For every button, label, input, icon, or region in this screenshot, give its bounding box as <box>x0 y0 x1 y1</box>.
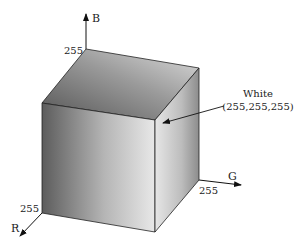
g-axis-max-label: 255 <box>199 185 218 196</box>
b-axis-label: B <box>92 12 100 25</box>
cube-left-face <box>42 103 155 232</box>
r-axis-label: R <box>11 222 20 235</box>
g-axis-label: G <box>228 170 237 183</box>
white-value-label: (255,255,255) <box>222 101 294 112</box>
white-label: White <box>243 88 273 99</box>
b-axis-max-label: 255 <box>64 45 83 56</box>
rgb-cube-diagram: B 255 G 255 R 255 White (255,255,255) <box>0 0 302 248</box>
r-axis-max-label: 255 <box>20 203 39 214</box>
r-axis <box>20 213 42 236</box>
